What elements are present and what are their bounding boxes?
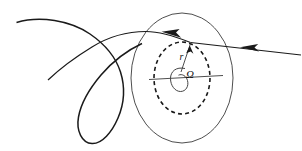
angular-velocity-label: Ω — [186, 68, 194, 80]
physics-diagram-figure: r Ω — [0, 0, 302, 151]
incoming-trajectory-line — [191, 43, 302, 56]
diagram-canvas: r Ω — [0, 0, 302, 151]
outgoing-trajectory-line — [48, 32, 191, 81]
arrowhead-radius-icon — [186, 46, 193, 54]
arrowhead-incoming-icon — [240, 44, 259, 52]
radius-label: r — [180, 51, 184, 62]
spiral-trajectory-loop — [17, 19, 143, 143]
